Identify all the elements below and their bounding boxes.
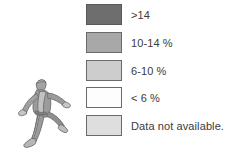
- map-legend-figure: >14 10-14 % 6-10 % < 6 % Data not availa…: [0, 0, 235, 158]
- running-person-icon: [6, 74, 84, 158]
- running-person-illustration: [6, 74, 84, 158]
- legend-swatch: [86, 115, 122, 136]
- legend-item: < 6 %: [86, 86, 235, 109]
- legend-swatch: [86, 32, 122, 53]
- legend-swatch: [86, 87, 122, 108]
- legend-item: Data not available.: [86, 114, 235, 137]
- legend-label: < 6 %: [131, 92, 160, 104]
- legend-item: 10-14 %: [86, 31, 235, 54]
- legend-item: >14: [86, 3, 235, 26]
- legend-label: >14: [131, 9, 150, 21]
- legend-list: >14 10-14 % 6-10 % < 6 % Data not availa…: [86, 3, 235, 155]
- legend-swatch: [86, 60, 122, 81]
- legend-label: 6-10 %: [131, 65, 166, 77]
- legend-swatch: [86, 4, 122, 25]
- legend-label: 10-14 %: [131, 37, 173, 49]
- legend-label: Data not available.: [131, 120, 224, 132]
- legend-item: 6-10 %: [86, 59, 235, 82]
